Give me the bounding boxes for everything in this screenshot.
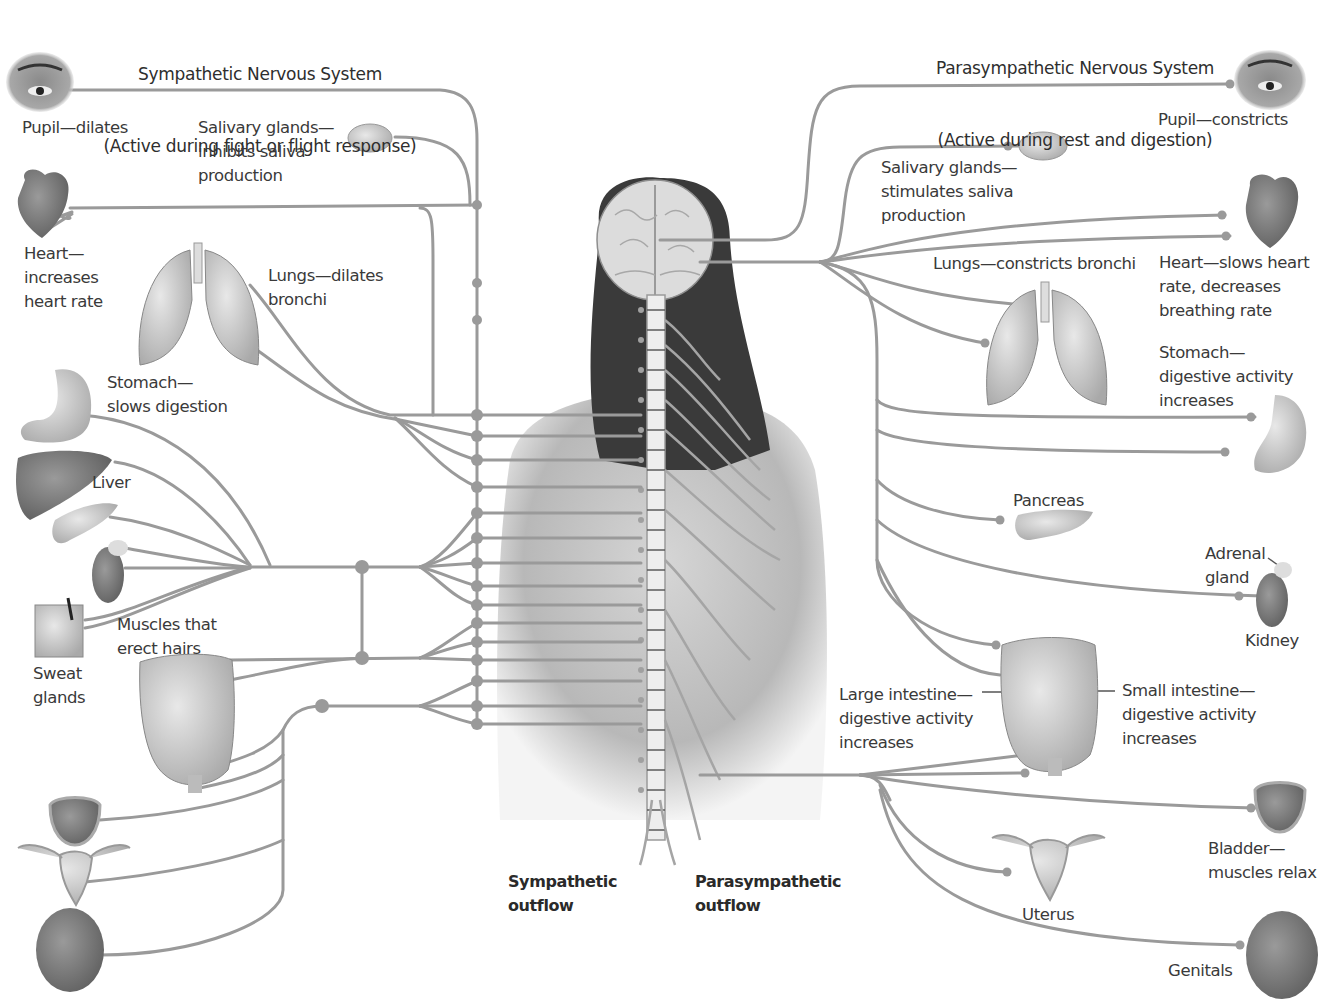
label-bladder-relax: Bladder— muscles relax bbox=[1208, 837, 1317, 885]
uterus-right-icon bbox=[992, 835, 1105, 900]
stomach-left-icon bbox=[21, 369, 91, 442]
parasympathetic-title: Parasympathetic Nervous System bbox=[920, 56, 1230, 80]
eye-right-icon bbox=[1234, 50, 1306, 110]
lungs-left-icon bbox=[139, 243, 259, 365]
skin-sweat-gland-icon bbox=[35, 598, 83, 657]
bladder-right-icon bbox=[1255, 783, 1305, 833]
kidney-left-icon bbox=[92, 540, 128, 603]
label-pupil-dilates: Pupil—dilates bbox=[22, 116, 128, 140]
label-heart-slows: Heart—slows heart rate, decreases breath… bbox=[1159, 251, 1309, 323]
label-salivary-inhibits: Salivary glands— inhibits saliva product… bbox=[198, 116, 334, 188]
label-heart-increases: Heart— increases heart rate bbox=[24, 242, 103, 314]
genitals-left-icon bbox=[36, 908, 104, 992]
heart-right-icon bbox=[1246, 175, 1298, 248]
label-muscles-erect-hairs: Muscles that erect hairs bbox=[117, 613, 217, 661]
label-stomach-increases: Stomach— digestive activity increases bbox=[1159, 341, 1293, 413]
label-sympathetic-outflow: Sympathetic outflow bbox=[508, 870, 617, 918]
label-parasympathetic-outflow: Parasympathetic outflow bbox=[695, 870, 841, 918]
human-back-figure bbox=[497, 177, 827, 865]
label-pupil-constricts: Pupil—constricts bbox=[1158, 108, 1288, 132]
label-lungs-constricts: Lungs—constricts bronchi bbox=[933, 252, 1136, 276]
label-kidney: Kidney bbox=[1245, 629, 1299, 653]
heart-left-icon bbox=[18, 170, 69, 238]
intestines-left-icon bbox=[140, 654, 235, 793]
label-salivary-stimulates: Salivary glands— stimulates saliva produ… bbox=[881, 156, 1017, 228]
label-genitals: Genitals bbox=[1168, 959, 1233, 983]
label-liver: Liver bbox=[92, 471, 130, 495]
autonomic-nervous-system-diagram: Sympathetic Nervous System (Active durin… bbox=[0, 0, 1332, 1001]
label-large-intestine: Large intestine— digestive activity incr… bbox=[839, 683, 973, 755]
lungs-right-icon bbox=[987, 282, 1107, 405]
uterus-left-icon bbox=[18, 845, 130, 905]
bladder-left-icon bbox=[50, 798, 100, 846]
genitals-right-icon bbox=[1246, 911, 1318, 999]
label-sweat-glands: Sweat glands bbox=[33, 662, 85, 710]
label-stomach-slows: Stomach— slows digestion bbox=[107, 371, 228, 419]
label-lungs-dilates: Lungs—dilates bronchi bbox=[268, 264, 383, 312]
sympathetic-title: Sympathetic Nervous System bbox=[90, 62, 430, 86]
label-uterus: Uterus bbox=[1022, 903, 1074, 927]
label-small-intestine: Small intestine— digestive activity incr… bbox=[1122, 679, 1256, 751]
pancreas-left-icon bbox=[52, 503, 118, 543]
eye-left-icon bbox=[6, 52, 74, 112]
label-pancreas: Pancreas bbox=[1013, 489, 1084, 513]
label-adrenal-gland: Adrenal gland bbox=[1205, 542, 1265, 590]
pancreas-right-icon bbox=[1015, 510, 1093, 540]
